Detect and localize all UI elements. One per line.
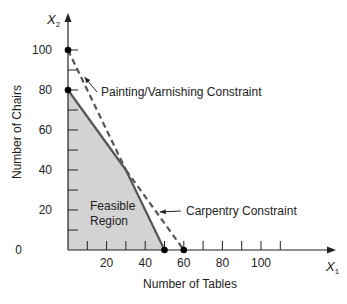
y-tick-label-20: 20 xyxy=(39,203,53,217)
y-axis-symbol: X2 xyxy=(46,12,61,29)
annotation-arrowhead-icon-2 xyxy=(160,209,166,214)
feasible-region-label-line-1: Feasible xyxy=(90,199,136,213)
x-axis-arrow-icon xyxy=(327,247,336,254)
y-tick-label-60: 60 xyxy=(39,123,53,137)
y-axis-title: Number of Chairs xyxy=(10,85,24,179)
y-tick-label-80: 80 xyxy=(39,83,53,97)
x-tick-label-40: 40 xyxy=(139,256,153,270)
feasible-region-label-line-2: Region xyxy=(90,214,128,228)
x-tick-label-100: 100 xyxy=(251,256,271,270)
x-tick-label-20: 20 xyxy=(100,256,114,270)
y-tick-label-40: 40 xyxy=(39,163,53,177)
point-0-80 xyxy=(65,87,72,94)
annotation-label-1: Painting/Varnishing Constraint xyxy=(101,85,262,99)
x-tick-label-80: 80 xyxy=(216,256,230,270)
y-tick-label-0: 0 xyxy=(15,243,22,257)
y-axis-arrow-icon xyxy=(65,13,72,22)
chart: 20406080100020406080100 Painting/Varnish… xyxy=(0,0,347,304)
annotation-label-2: Carpentry Constraint xyxy=(186,204,297,218)
point-0-100 xyxy=(65,47,72,54)
y-tick-label-100: 100 xyxy=(32,43,52,57)
point-60-0 xyxy=(181,247,188,254)
point-50-0 xyxy=(161,247,168,254)
x-tick-label-60: 60 xyxy=(177,256,191,270)
x-axis-symbol: X1 xyxy=(325,259,340,276)
x-axis-title: Number of Tables xyxy=(143,277,237,291)
